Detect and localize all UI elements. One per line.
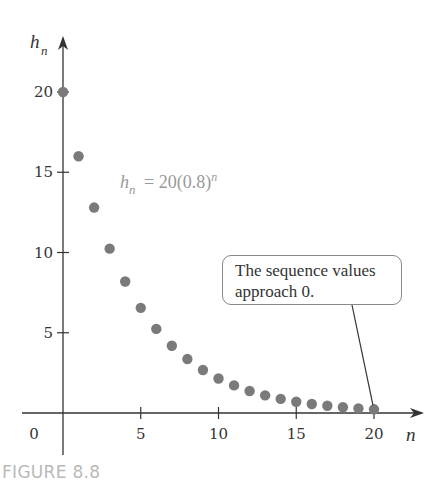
data-point bbox=[73, 151, 83, 161]
data-point bbox=[58, 87, 68, 97]
x-axis-label: n bbox=[406, 424, 416, 445]
callout-annotation: The sequence values approach 0. bbox=[222, 255, 402, 305]
data-point bbox=[120, 276, 130, 286]
x-tick-label: 20 bbox=[364, 425, 383, 443]
data-points bbox=[58, 87, 379, 415]
callout-pointer bbox=[352, 305, 373, 405]
data-point bbox=[322, 401, 332, 411]
data-point bbox=[229, 380, 239, 390]
data-point bbox=[260, 390, 270, 400]
data-point bbox=[244, 386, 254, 396]
figure-caption: FIGURE 8.8 bbox=[2, 462, 100, 482]
axes bbox=[22, 38, 422, 455]
data-point bbox=[291, 397, 301, 407]
origin-label: 0 bbox=[29, 425, 39, 443]
data-point bbox=[167, 341, 177, 351]
data-point bbox=[136, 303, 146, 313]
data-point bbox=[89, 202, 99, 212]
x-tick-label: 15 bbox=[287, 425, 306, 443]
y-tick-label: 10 bbox=[34, 244, 53, 262]
sequence-chart: 510152051015200 hnnhn = 20(0.8)n bbox=[0, 0, 446, 490]
y-axis-label: h bbox=[30, 31, 40, 52]
data-point bbox=[338, 402, 348, 412]
formula-label: hn = 20(0.8)n bbox=[120, 170, 217, 197]
data-point bbox=[198, 365, 208, 375]
data-point bbox=[369, 404, 379, 414]
callout-line-2: approach 0. bbox=[235, 281, 401, 302]
x-tick-label: 5 bbox=[136, 425, 146, 443]
data-point bbox=[151, 324, 161, 334]
y-tick-label: 15 bbox=[34, 163, 53, 181]
axis-labels: hnnhn = 20(0.8)n bbox=[30, 31, 416, 445]
callout-line-1: The sequence values bbox=[235, 260, 401, 281]
data-point bbox=[104, 243, 114, 253]
data-point bbox=[353, 403, 363, 413]
data-point bbox=[307, 399, 317, 409]
data-point bbox=[276, 394, 286, 404]
y-tick-label: 5 bbox=[43, 324, 53, 342]
y-tick-label: 20 bbox=[34, 83, 53, 101]
callout-pointer-line bbox=[352, 305, 373, 405]
y-axis-label-subscript: n bbox=[41, 43, 48, 58]
x-tick-label: 10 bbox=[209, 425, 228, 443]
data-point bbox=[213, 373, 223, 383]
data-point bbox=[182, 354, 192, 364]
